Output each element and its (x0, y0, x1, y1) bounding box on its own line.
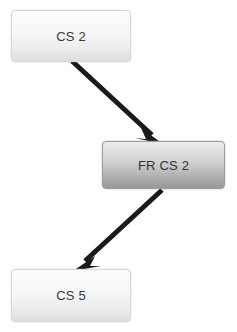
edge-cs2-to-frcs2[interactable] (72, 61, 163, 144)
node-cs2[interactable]: CS 2 (11, 10, 131, 62)
node-frcs2[interactable]: FR CS 2 (102, 141, 225, 189)
node-frcs2-label: FR CS 2 (138, 158, 189, 173)
diagram-canvas: CS 2 FR CS 2 CS 5 (0, 0, 237, 332)
edge-frcs2-to-cs5[interactable] (73, 190, 162, 271)
node-cs2-label: CS 2 (56, 29, 86, 44)
node-cs5[interactable]: CS 5 (11, 269, 131, 322)
node-cs5-label: CS 5 (56, 288, 86, 303)
